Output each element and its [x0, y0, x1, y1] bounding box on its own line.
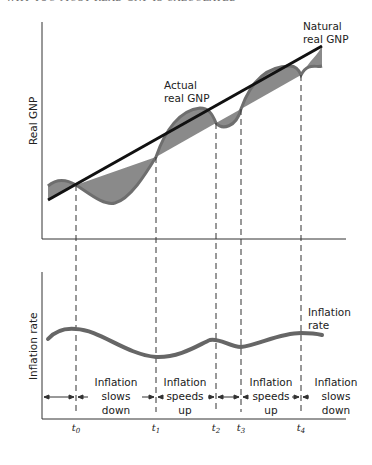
inflation-rate-label-2: rate — [308, 319, 329, 331]
gnp-inflation-diagram: Natural real GNP Actual real GNP Real GN… — [0, 0, 372, 465]
real-gnp-axis-label: Real GNP — [27, 97, 39, 145]
period-annotation-1: Inflation slows down — [95, 376, 138, 416]
svg-text:Inflation: Inflation — [95, 376, 138, 388]
svg-text:Inflation: Inflation — [164, 376, 207, 388]
actual-gnp-label: Actual — [164, 79, 197, 91]
svg-text:up: up — [264, 404, 278, 416]
t0-label: t0 — [72, 422, 81, 435]
natural-gnp-label: Natural — [303, 20, 342, 32]
inflation-rate-curve — [48, 329, 322, 357]
svg-text:slows: slows — [322, 390, 351, 402]
svg-text:Inflation: Inflation — [250, 376, 293, 388]
t1-label: t1 — [152, 422, 161, 435]
t4-label: t4 — [297, 422, 306, 435]
svg-text:speeds: speeds — [166, 390, 203, 402]
svg-text:slows: slows — [102, 390, 131, 402]
svg-text:up: up — [178, 404, 192, 416]
svg-text:Inflation: Inflation — [315, 376, 358, 388]
natural-gnp-label-2: real GNP — [303, 33, 349, 45]
svg-text:speeds: speeds — [252, 390, 289, 402]
period-annotation-4: Inflation slows down — [315, 376, 358, 416]
natural-gnp-line — [48, 46, 322, 200]
svg-text:down: down — [322, 404, 350, 416]
period-annotation-3: Inflation speeds up — [250, 376, 293, 416]
t3-label: t3 — [237, 422, 246, 435]
inflation-rate-axis-label: Inflation rate — [27, 312, 39, 380]
inflation-rate-label: Inflation — [308, 306, 351, 318]
period-annotation-2: Inflation speeds up — [164, 376, 207, 416]
svg-text:down: down — [102, 404, 130, 416]
actual-gnp-label-2: real GNP — [164, 92, 210, 104]
time-labels: t0 t1 t2 t3 t4 — [72, 422, 306, 435]
t2-label: t2 — [212, 422, 221, 435]
